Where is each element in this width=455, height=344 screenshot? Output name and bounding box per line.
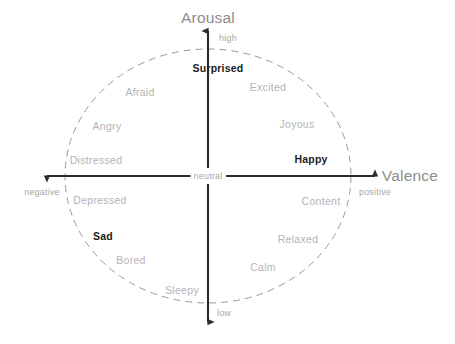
emotion-label-content: Content [302, 196, 341, 207]
arousal-high-label: high [219, 34, 237, 43]
emotion-label-bored: Bored [116, 255, 146, 266]
arousal-axis-title: Arousal [181, 10, 235, 26]
emotion-label-sleepy: Sleepy [165, 285, 199, 296]
valence-arousal-circumplex-diagram: Arousal Valence high low negative positi… [0, 0, 455, 344]
emotion-label-sad: Sad [93, 231, 113, 242]
origin-neutral-label: neutral [191, 172, 226, 181]
valence-axis-title: Valence [382, 168, 438, 184]
emotion-label-distressed: Distressed [70, 155, 123, 166]
emotion-label-relaxed: Relaxed [278, 234, 319, 245]
valence-negative-label: negative [24, 188, 60, 197]
valence-positive-label: positive [359, 188, 391, 197]
emotion-label-joyous: Joyous [279, 119, 314, 130]
arousal-low-label: low [217, 309, 231, 318]
emotion-label-afraid: Afraid [125, 87, 154, 98]
emotion-label-depressed: Depressed [73, 195, 126, 206]
emotion-label-surprised: Surprised [193, 63, 244, 74]
emotion-label-angry: Angry [93, 121, 122, 132]
emotion-label-calm: Calm [250, 262, 276, 273]
emotion-label-excited: Excited [250, 82, 287, 93]
emotion-label-happy: Happy [294, 154, 327, 165]
